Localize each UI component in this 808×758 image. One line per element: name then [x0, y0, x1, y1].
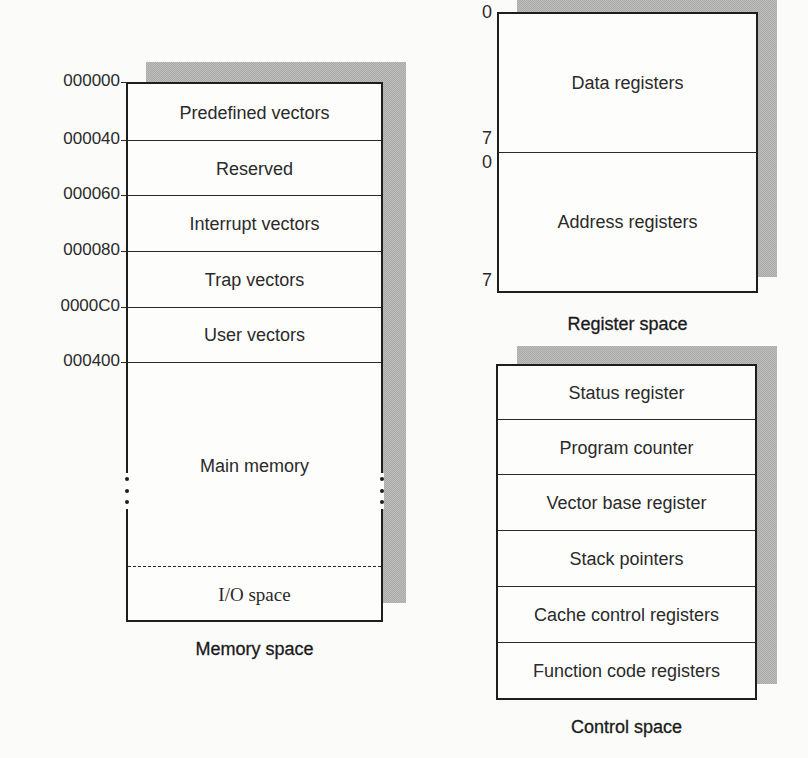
memory-region-user-vectors: User vectors [128, 309, 381, 362]
control-divider [498, 530, 755, 531]
memory-region-reserved: Reserved [128, 142, 381, 197]
register-index: 7 [472, 128, 492, 149]
ellipsis-dot [380, 477, 384, 481]
memory-region-main-memory: Main memory [128, 444, 381, 488]
control-register-cache-control: Cache control registers [498, 588, 755, 643]
memory-region-predefined-vectors: Predefined vectors [128, 84, 381, 142]
register-space-box: Data registers Address registers [497, 12, 758, 293]
memory-divider [128, 362, 381, 363]
control-divider [498, 642, 755, 643]
register-group-label: Address registers [557, 212, 697, 233]
register-divider [499, 152, 756, 153]
memory-divider [128, 251, 381, 252]
region-label: Trap vectors [205, 270, 304, 291]
control-divider [498, 419, 755, 420]
control-register-label: Stack pointers [569, 549, 683, 570]
register-index: 0 [472, 152, 492, 173]
control-register-label: Vector base register [546, 493, 706, 514]
ellipsis-dot [125, 489, 129, 493]
control-space-box: Status register Program counter Vector b… [496, 364, 757, 700]
memory-divider [128, 140, 381, 141]
control-register-label: Program counter [559, 438, 693, 459]
memory-region-interrupt-vectors: Interrupt vectors [128, 197, 381, 251]
address-label: 000400 [40, 351, 120, 371]
register-group-data: Data registers [499, 14, 756, 152]
control-register-label: Cache control registers [534, 605, 719, 626]
control-register-status: Status register [498, 366, 755, 420]
region-label: Predefined vectors [179, 103, 329, 124]
memory-divider [128, 195, 381, 196]
region-label: Main memory [200, 456, 309, 477]
register-group-address: Address registers [499, 154, 756, 291]
address-tick [121, 140, 127, 141]
register-space-caption: Register space [497, 314, 758, 335]
region-label: User vectors [204, 325, 305, 346]
ellipsis-dot [380, 500, 384, 504]
ellipsis-dot [125, 500, 129, 504]
control-register-vector-base: Vector base register [498, 476, 755, 531]
ellipsis-dot [380, 489, 384, 493]
control-divider [498, 474, 755, 475]
control-register-label: Function code registers [533, 661, 720, 682]
io-boundary-dashed-line [128, 566, 381, 567]
control-space-caption: Control space [496, 717, 757, 738]
control-register-stack-pointers: Stack pointers [498, 532, 755, 587]
register-index: 0 [472, 2, 492, 23]
control-register-function-code: Function code registers [498, 644, 755, 698]
memory-region-io-space: I/O space [128, 570, 381, 620]
region-label: Interrupt vectors [189, 214, 319, 235]
memory-region-trap-vectors: Trap vectors [128, 253, 381, 307]
address-tick [121, 307, 127, 308]
address-label: 0000C0 [40, 296, 120, 316]
control-register-program-counter: Program counter [498, 421, 755, 475]
address-label: 000080 [40, 240, 120, 260]
address-label: 000000 [40, 71, 120, 91]
register-group-label: Data registers [571, 73, 683, 94]
memory-space-box: Predefined vectors Reserved Interrupt ve… [126, 82, 383, 622]
address-tick [121, 251, 127, 252]
memory-divider [128, 307, 381, 308]
control-register-label: Status register [568, 383, 684, 404]
control-divider [498, 586, 755, 587]
ellipsis-dot [125, 477, 129, 481]
address-tick [121, 195, 127, 196]
memory-space-caption: Memory space [126, 639, 383, 660]
address-tick [121, 362, 127, 363]
address-label: 000060 [40, 184, 120, 204]
register-index: 7 [472, 270, 492, 291]
address-tick [121, 82, 127, 83]
region-label: Reserved [216, 159, 293, 180]
region-label: I/O space [218, 584, 290, 606]
address-label: 000040 [40, 129, 120, 149]
